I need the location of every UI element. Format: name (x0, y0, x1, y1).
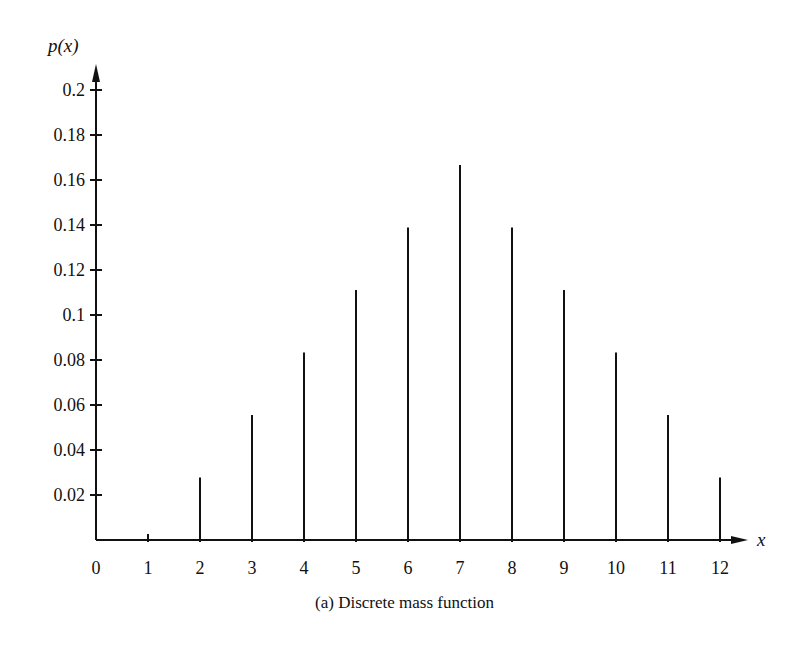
y-tick-label: 0.12 (54, 260, 86, 280)
x-tick-label: 12 (711, 558, 729, 578)
x-axis-label: x (756, 529, 766, 550)
x-tick-label: 7 (456, 558, 465, 578)
x-axis-arrow-icon (731, 536, 748, 544)
x-tick-label: 1 (144, 558, 153, 578)
y-tick-label: 0.14 (54, 215, 86, 235)
y-tick-label: 0.06 (54, 395, 86, 415)
x-tick-label: 11 (659, 558, 676, 578)
y-axis: 0.020.040.060.080.10.120.140.160.180.2 (54, 64, 103, 540)
x-tick-label: 8 (508, 558, 517, 578)
x-tick-label: 10 (607, 558, 625, 578)
y-tick-label: 0.08 (54, 350, 86, 370)
chart-caption: (a) Discrete mass function (0, 593, 809, 613)
y-axis-arrow-icon (92, 64, 100, 82)
x-tick-label: 6 (404, 558, 413, 578)
y-tick-label: 0.1 (63, 305, 86, 325)
x-tick-label: 2 (196, 558, 205, 578)
x-tick-label: 5 (352, 558, 361, 578)
y-axis-label: p(x) (46, 35, 79, 57)
x-tick-label: 0 (92, 558, 101, 578)
pmf-chart: 0.020.040.060.080.10.120.140.160.180.2 0… (0, 0, 809, 651)
y-tick-label: 0.02 (54, 485, 86, 505)
stems (200, 165, 720, 540)
y-tick-label: 0.04 (54, 440, 86, 460)
x-tick-label: 9 (560, 558, 569, 578)
y-tick-label: 0.16 (54, 170, 86, 190)
y-tick-label: 0.2 (63, 80, 86, 100)
x-tick-label: 3 (248, 558, 257, 578)
x-tick-label: 4 (300, 558, 309, 578)
x-axis: 0123456789101112 (92, 534, 749, 578)
y-tick-label: 0.18 (54, 125, 86, 145)
